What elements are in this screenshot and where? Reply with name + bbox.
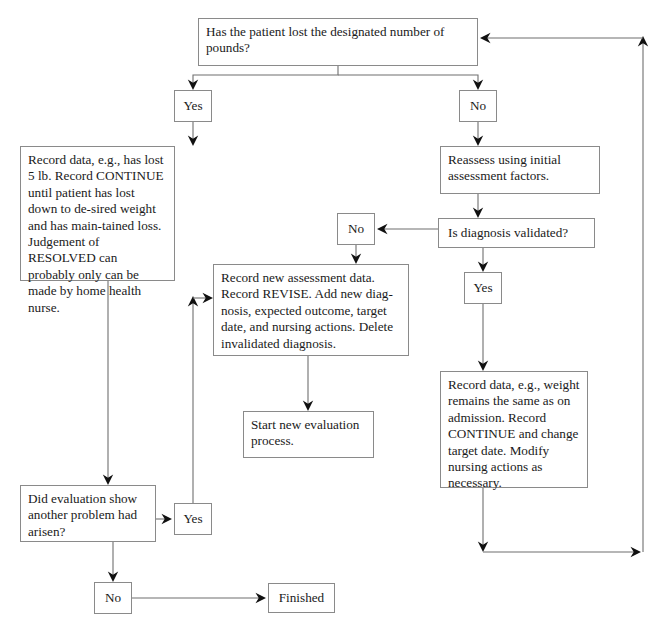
node-record-revise: Record new assessment data. Record REVIS… bbox=[213, 264, 409, 356]
node-finished: Finished bbox=[268, 583, 335, 613]
node-yes-1: Yes bbox=[174, 90, 212, 122]
edge-question-to-no1 bbox=[338, 75, 478, 88]
node-yes-2: Yes bbox=[464, 272, 502, 304]
node-no-3: No bbox=[94, 582, 132, 614]
node-record-continue-2: Record data, e.g., weight remains the sa… bbox=[440, 371, 588, 488]
node-reassess: Reassess using initial assessment factor… bbox=[440, 146, 600, 194]
node-q-diagnosis-validated: Is diagnosis validated? bbox=[438, 218, 595, 248]
node-q-another-problem: Did evaluation show another problem had … bbox=[20, 485, 156, 542]
node-yes-3: Yes bbox=[174, 503, 212, 535]
node-no-2: No bbox=[337, 213, 375, 245]
edge-question-to-yes1 bbox=[193, 66, 338, 88]
node-start-new-evaluation: Start new evaluation process. bbox=[243, 411, 374, 458]
node-record-continue: Record data, e.g., has lost 5 lb. Record… bbox=[20, 146, 175, 281]
flowchart-canvas: Has the patient lost the designated numb… bbox=[0, 0, 662, 631]
node-q-lost-pounds: Has the patient lost the designated numb… bbox=[198, 18, 478, 66]
node-no-1: No bbox=[459, 90, 497, 122]
